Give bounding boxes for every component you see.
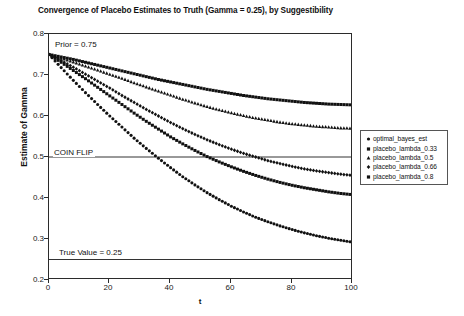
data-point [129, 99, 132, 103]
data-point [309, 101, 312, 104]
data-point [333, 126, 336, 129]
data-point [306, 232, 309, 235]
x-tick-label: 40 [149, 283, 189, 292]
data-point [315, 169, 318, 173]
data-point [315, 234, 318, 237]
data-point [297, 185, 300, 188]
data-point [84, 61, 87, 64]
data-point [330, 191, 333, 194]
data-point [230, 92, 233, 95]
data-point [160, 116, 163, 120]
legend-item[interactable]: placebo_lambda_0.66 [364, 162, 444, 171]
data-point [206, 191, 209, 194]
data-point [339, 239, 342, 242]
data-point [151, 111, 154, 115]
data-point [224, 109, 227, 112]
data-point [303, 231, 306, 234]
data-point [154, 154, 157, 157]
legend-item[interactable]: placebo_lambda_0.33 [364, 143, 444, 152]
data-point [342, 239, 345, 242]
legend-item[interactable]: optimal_bayes_est [364, 134, 444, 143]
data-point [105, 66, 108, 69]
legend-item[interactable]: placebo_lambda_0.8 [364, 172, 444, 181]
data-point [242, 170, 245, 173]
data-point [148, 76, 151, 79]
data-point [263, 118, 266, 121]
data-point [254, 155, 257, 159]
data-point [96, 103, 99, 106]
data-point [324, 125, 327, 128]
data-point [351, 241, 352, 244]
data-point [218, 90, 221, 93]
data-point [175, 124, 178, 128]
data-point [105, 71, 108, 74]
data-point [245, 114, 248, 117]
data-point [218, 108, 221, 111]
data-point [196, 86, 199, 89]
data-point [208, 139, 211, 143]
data-point [126, 79, 129, 82]
data-point [160, 79, 163, 82]
data-point [230, 165, 233, 168]
data-point [114, 90, 117, 94]
data-point [136, 114, 139, 117]
data-point [245, 171, 248, 174]
data-point [257, 175, 260, 178]
data-point [242, 114, 245, 117]
data-point [285, 99, 288, 102]
legend-label: placebo_lambda_0.8 [373, 173, 433, 180]
data-point [287, 164, 290, 168]
data-point [136, 73, 139, 76]
data-point [342, 103, 345, 106]
data-point [135, 102, 138, 106]
data-point [193, 149, 196, 152]
data-point [342, 173, 345, 177]
legend-item[interactable]: placebo_lambda_0.5 [364, 153, 444, 162]
data-point [196, 185, 199, 188]
x-tick-label: 100 [331, 283, 371, 292]
data-point [181, 142, 184, 145]
data-point [81, 75, 84, 78]
data-point [303, 123, 306, 126]
data-point [154, 112, 157, 116]
data-point [96, 64, 99, 67]
data-point [211, 140, 214, 144]
data-point [111, 117, 114, 120]
data-point [133, 137, 136, 140]
data-point [345, 240, 348, 243]
data-point [72, 69, 75, 72]
data-point [205, 138, 208, 142]
data-point [285, 182, 288, 185]
data-point [233, 166, 236, 169]
data-point [212, 195, 215, 198]
data-point [166, 133, 169, 136]
data-point [291, 100, 294, 103]
data-point [157, 89, 160, 92]
data-point [288, 99, 291, 102]
data-point [69, 76, 72, 79]
data-point [117, 75, 120, 78]
data-point [148, 149, 151, 152]
data-point [215, 107, 218, 110]
data-point [327, 171, 330, 175]
data-point [99, 106, 102, 109]
data-point [342, 192, 345, 195]
data-point [284, 121, 287, 124]
data-point [145, 120, 148, 123]
data-point [190, 181, 193, 184]
data-point [81, 63, 84, 66]
data-point [181, 83, 184, 86]
data-point [114, 99, 117, 102]
data-point [266, 118, 269, 121]
data-point [257, 96, 260, 99]
data-point [351, 127, 352, 130]
data-point [285, 226, 288, 229]
data-point [206, 88, 209, 91]
data-point [263, 219, 266, 222]
data-point [87, 74, 90, 78]
data-point [187, 179, 190, 182]
data-point [269, 160, 272, 164]
data-point [275, 161, 278, 165]
data-point [72, 79, 75, 82]
data-point [126, 131, 129, 134]
